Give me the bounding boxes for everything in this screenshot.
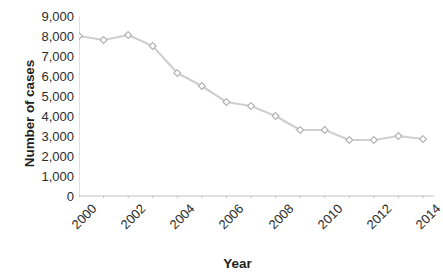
x-axis-title: Year: [0, 256, 443, 271]
x-axis-tick-label: 2012: [363, 201, 394, 232]
x-axis-tick-label: 2000: [69, 201, 100, 232]
x-axis-title-text: Year: [223, 256, 252, 271]
x-axis-tick-label: 2006: [216, 201, 247, 232]
x-axis-tick-label: 2010: [314, 201, 345, 232]
x-axis-tick-label: 2004: [167, 201, 198, 232]
x-axis-tick-label: 2014: [413, 201, 443, 232]
figure-caption: [6, 274, 443, 279]
x-axis-tick-labels: 20002002200420062008201020122014: [0, 0, 443, 279]
x-axis-tick-label: 2002: [118, 201, 149, 232]
line-chart-figure: Number of cases 01,0002,0003,0004,0005,0…: [0, 0, 443, 279]
x-axis-tick-label: 2008: [265, 201, 296, 232]
